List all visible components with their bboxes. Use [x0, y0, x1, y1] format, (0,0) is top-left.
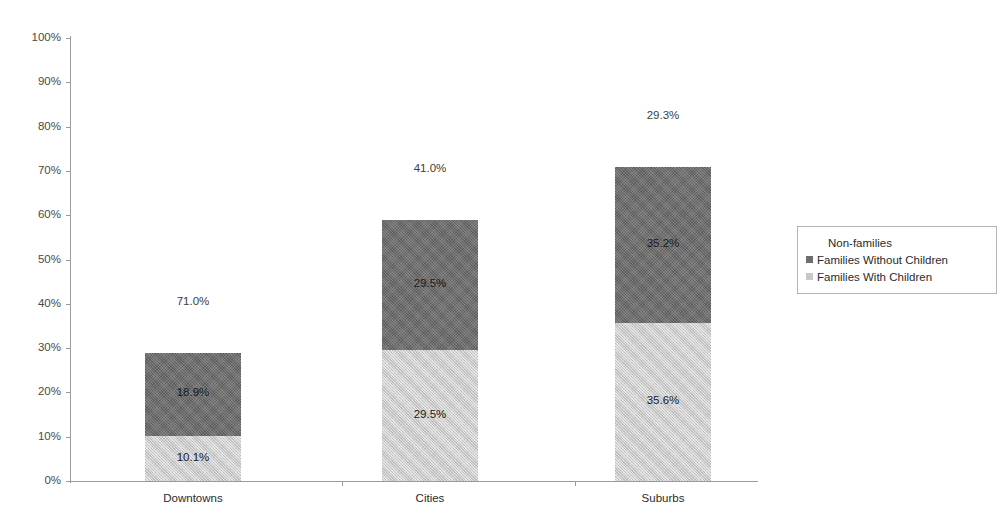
bar-total-non-families-label: 71.0%	[113, 295, 273, 307]
bar-segment-families-without-children[interactable]: 29.5%	[382, 220, 478, 351]
x-axis-category-label: Cities	[360, 492, 500, 504]
bar-segment-families-with-children[interactable]: 29.5%	[382, 350, 478, 481]
bar-segment-families-without-children[interactable]: 35.2%	[615, 167, 711, 323]
bar-segment-value-label: 29.5%	[382, 277, 478, 289]
bar-segment-value-label: 10.1%	[145, 451, 241, 463]
bar-group: 35.6%35.2%29.3%	[615, 38, 711, 481]
stacked-bar[interactable]: 35.6%35.2%	[615, 167, 711, 481]
bar-total-non-families-label: 29.3%	[583, 109, 743, 121]
chart-legend: Non-families Families Without Children F…	[797, 226, 997, 294]
legend-item-label: Non-families	[817, 237, 892, 249]
x-axis-category-label: Suburbs	[593, 492, 733, 504]
legend-swatch-families-with-children-icon	[806, 273, 813, 280]
stacked-bar-chart: 100%90%80%70%60%50%40%30%20%10%0% 10.1%1…	[0, 0, 1005, 532]
y-axis-tick-label: 40%	[0, 297, 70, 311]
stacked-bar[interactable]: 29.5%29.5%	[382, 220, 478, 481]
bar-segment-value-label: 29.5%	[382, 408, 478, 420]
bar-group: 10.1%18.9%71.0%	[145, 38, 241, 481]
bar-segment-value-label: 35.6%	[615, 394, 711, 406]
legend-item: Non-families	[806, 234, 988, 251]
y-axis-tick-mark	[66, 481, 71, 482]
bar-total-non-families-label: 41.0%	[350, 162, 510, 174]
legend-item: Families With Children	[806, 268, 988, 285]
legend-item-label: Families With Children	[817, 271, 932, 283]
y-axis-tick-label: 70%	[0, 164, 70, 178]
bar-group: 29.5%29.5%41.0%	[382, 38, 478, 481]
y-axis-tick-label: 0%	[0, 474, 70, 488]
y-axis-tick-label: 80%	[0, 120, 70, 134]
plot-area: 10.1%18.9%71.0%29.5%29.5%41.0%35.6%35.2%…	[70, 38, 756, 481]
bar-segment-families-with-children[interactable]: 10.1%	[145, 436, 241, 481]
y-axis-tick-label: 100%	[0, 31, 70, 45]
bar-segment-families-with-children[interactable]: 35.6%	[615, 323, 711, 481]
y-axis-tick-label: 50%	[0, 253, 70, 267]
y-axis-tick-label: 20%	[0, 385, 70, 399]
stacked-bar[interactable]: 10.1%18.9%	[145, 353, 241, 481]
y-axis-tick-label: 30%	[0, 341, 70, 355]
y-axis-tick-label: 60%	[0, 208, 70, 222]
x-axis-line	[70, 481, 758, 482]
x-axis-tick-mark	[575, 481, 576, 486]
y-axis-tick-label: 90%	[0, 75, 70, 89]
legend-item: Families Without Children	[806, 251, 988, 268]
bar-segment-families-without-children[interactable]: 18.9%	[145, 353, 241, 437]
legend-swatch-families-without-children-icon	[806, 256, 813, 263]
bar-segment-value-label: 35.2%	[615, 237, 711, 249]
legend-swatch-non-families-icon	[806, 239, 813, 246]
x-axis-category-label: Downtowns	[123, 492, 263, 504]
bar-segment-value-label: 18.9%	[145, 386, 241, 398]
y-axis-tick-label: 10%	[0, 430, 70, 444]
x-axis-tick-mark	[342, 481, 343, 486]
legend-item-label: Families Without Children	[817, 254, 948, 266]
